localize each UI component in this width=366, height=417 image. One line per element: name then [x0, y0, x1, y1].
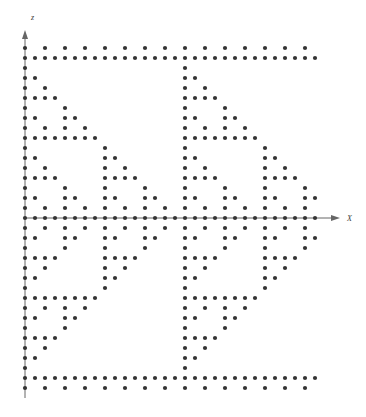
data-point — [103, 286, 107, 290]
data-point — [223, 246, 227, 250]
data-point — [63, 326, 67, 330]
data-point — [163, 386, 167, 390]
data-point — [263, 386, 267, 390]
data-point — [53, 256, 57, 260]
data-point — [193, 136, 197, 140]
data-point — [193, 96, 197, 100]
data-point — [123, 56, 127, 60]
data-point — [263, 236, 267, 240]
data-point — [153, 56, 157, 60]
data-point — [243, 46, 247, 50]
data-point — [193, 216, 197, 220]
data-point — [203, 166, 207, 170]
data-point — [63, 316, 67, 320]
data-point — [43, 386, 47, 390]
data-point — [183, 96, 187, 100]
data-point — [153, 376, 157, 380]
data-point — [33, 296, 37, 300]
data-point — [63, 226, 67, 230]
data-point — [73, 136, 77, 140]
data-point — [123, 166, 127, 170]
data-point — [63, 196, 67, 200]
data-point — [213, 336, 217, 340]
data-point — [183, 66, 187, 70]
data-point — [63, 216, 67, 220]
data-point — [183, 266, 187, 270]
data-point — [193, 256, 197, 260]
data-point — [223, 116, 227, 120]
data-point — [63, 246, 67, 250]
data-point — [203, 306, 207, 310]
data-point — [23, 146, 27, 150]
data-point — [233, 136, 237, 140]
data-point — [233, 376, 237, 380]
data-point — [193, 236, 197, 240]
data-point — [223, 386, 227, 390]
data-point — [83, 296, 87, 300]
data-point — [33, 136, 37, 140]
data-point — [193, 376, 197, 380]
data-point — [23, 206, 27, 210]
data-point — [233, 196, 237, 200]
data-point — [23, 376, 27, 380]
data-point — [183, 256, 187, 260]
data-point — [83, 206, 87, 210]
data-point — [123, 376, 127, 380]
data-point — [173, 216, 177, 220]
data-point — [23, 66, 27, 70]
data-point — [313, 376, 317, 380]
data-point — [303, 246, 307, 250]
data-point — [183, 276, 187, 280]
data-point — [103, 246, 107, 250]
data-point — [203, 126, 207, 130]
data-point — [283, 206, 287, 210]
data-point — [253, 376, 257, 380]
data-point — [103, 166, 107, 170]
data-point — [33, 236, 37, 240]
data-point — [213, 216, 217, 220]
data-point — [293, 176, 297, 180]
data-point — [33, 76, 37, 80]
data-point — [93, 56, 97, 60]
data-point — [313, 216, 317, 220]
data-point — [103, 46, 107, 50]
data-point — [23, 366, 27, 370]
data-point — [203, 46, 207, 50]
data-point — [43, 216, 47, 220]
data-point — [103, 236, 107, 240]
data-point — [253, 216, 257, 220]
data-point — [263, 216, 267, 220]
data-point — [33, 316, 37, 320]
data-point — [183, 316, 187, 320]
data-point — [213, 176, 217, 180]
data-point — [63, 186, 67, 190]
data-point — [183, 246, 187, 250]
data-point — [253, 56, 257, 60]
data-point — [33, 196, 37, 200]
data-point — [53, 96, 57, 100]
data-point — [113, 236, 117, 240]
data-point — [83, 126, 87, 130]
data-point — [103, 256, 107, 260]
data-point — [313, 236, 317, 240]
data-point — [43, 96, 47, 100]
data-point — [53, 56, 57, 60]
data-point — [103, 206, 107, 210]
data-point — [143, 216, 147, 220]
data-point — [23, 316, 27, 320]
data-point — [283, 176, 287, 180]
data-point — [163, 216, 167, 220]
data-point — [103, 226, 107, 230]
x-axis-label: X — [346, 214, 353, 223]
data-point — [63, 206, 67, 210]
data-point — [123, 266, 127, 270]
data-point — [213, 56, 217, 60]
data-point — [103, 56, 107, 60]
data-point — [33, 256, 37, 260]
data-point — [23, 296, 27, 300]
data-point — [263, 156, 267, 160]
data-point — [33, 116, 37, 120]
data-point — [113, 176, 117, 180]
data-point — [23, 326, 27, 330]
data-point — [183, 126, 187, 130]
